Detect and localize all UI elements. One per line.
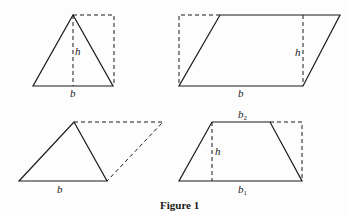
parallelogram-outline — [74, 122, 163, 181]
height-label: h — [75, 45, 81, 57]
bottom-base-label: b1 — [238, 183, 248, 197]
figure-canvas: h b h b b b2 h b1 Figure 1 — [0, 0, 346, 215]
trapezoid-shape — [179, 122, 302, 181]
panel-triangle-in-rectangle: h b — [33, 15, 114, 99]
panel-triangle-half-parallelogram: b — [19, 122, 163, 195]
panel-parallelogram-in-rectangle: h b — [179, 15, 340, 99]
base-label: b — [57, 183, 63, 195]
geometry-figure: h b h b b b2 h b1 Figure 1 — [0, 0, 346, 215]
panel-trapezoid: b2 h b1 — [179, 108, 302, 197]
height-label: h — [295, 46, 301, 58]
base-label: b — [70, 87, 76, 99]
figure-caption: Figure 1 — [160, 199, 199, 211]
height-label: h — [215, 145, 221, 157]
base-label: b — [238, 87, 244, 99]
top-base-label: b2 — [238, 108, 248, 122]
triangle-shape — [19, 122, 107, 181]
parallelogram-shape — [179, 15, 340, 86]
